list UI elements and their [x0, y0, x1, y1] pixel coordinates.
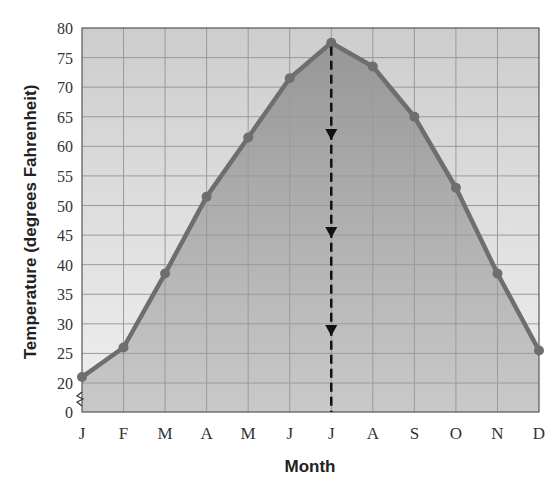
x-tick-label: A	[200, 424, 213, 443]
y-axis-title: Temperature (degrees Fahrenheit)	[21, 85, 40, 360]
x-tick-label: F	[119, 424, 128, 443]
x-tick-label: J	[79, 424, 86, 443]
data-point-marker	[409, 112, 419, 122]
x-tick-label: O	[450, 424, 462, 443]
y-tick-label: 25	[57, 345, 73, 362]
data-point-marker	[534, 345, 544, 355]
line-area-chart: 020253035404550556065707580 JFMAMJJASOND…	[0, 0, 558, 489]
y-tick-label: 55	[57, 168, 73, 185]
x-tick-label: M	[158, 424, 173, 443]
data-point-marker	[326, 38, 336, 48]
y-axis-ticks: 020253035404550556065707580	[57, 20, 73, 421]
x-tick-label: D	[533, 424, 545, 443]
y-tick-label: 45	[57, 227, 73, 244]
y-tick-label: 70	[57, 79, 73, 96]
y-tick-label: 80	[57, 20, 73, 37]
x-axis-ticks: JFMAMJJASOND	[79, 424, 545, 443]
x-tick-label: M	[241, 424, 256, 443]
data-point-marker	[368, 61, 378, 71]
data-point-marker	[285, 73, 295, 83]
y-tick-label: 40	[57, 257, 73, 274]
data-point-marker	[243, 132, 253, 142]
x-tick-label: J	[328, 424, 335, 443]
data-point-marker	[202, 192, 212, 202]
y-tick-label: 50	[57, 198, 73, 215]
y-tick-label: 35	[57, 286, 73, 303]
data-point-marker	[160, 269, 170, 279]
y-tick-label: 0	[65, 404, 73, 421]
x-tick-label: N	[491, 424, 503, 443]
x-axis-title: Month	[285, 457, 336, 476]
y-tick-label: 30	[57, 316, 73, 333]
x-tick-label: J	[286, 424, 293, 443]
y-tick-label: 60	[57, 138, 73, 155]
data-point-marker	[77, 372, 87, 382]
x-tick-label: A	[367, 424, 380, 443]
x-tick-label: S	[410, 424, 419, 443]
y-tick-label: 20	[57, 375, 73, 392]
data-point-marker	[119, 343, 129, 353]
y-tick-label: 65	[57, 109, 73, 126]
data-point-marker	[451, 183, 461, 193]
data-point-marker	[492, 269, 502, 279]
y-tick-label: 75	[57, 50, 73, 67]
